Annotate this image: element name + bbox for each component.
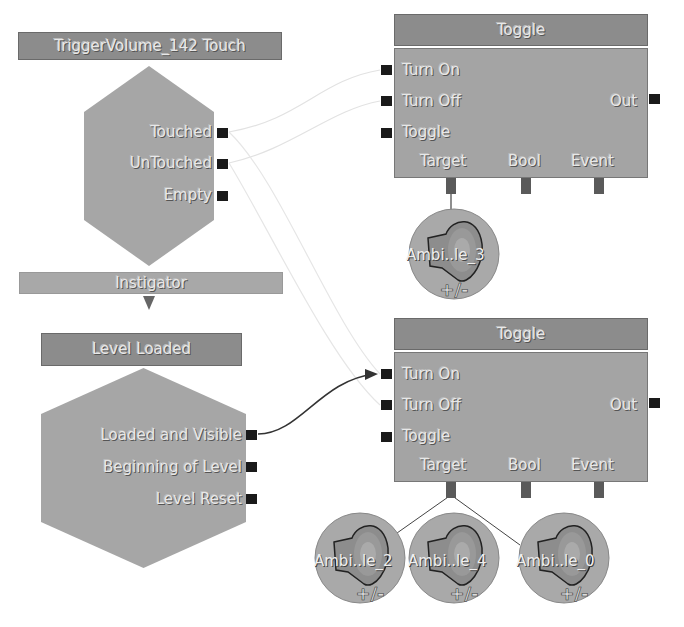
output-port-loaded-and-visible[interactable] <box>246 430 257 440</box>
level-loaded-title[interactable]: Level Loaded <box>41 333 242 366</box>
variable-label: Ambi..le_0 <box>516 552 595 570</box>
output-port-beginning-of-level[interactable] <box>246 462 257 472</box>
toggle-top-input-toggle: Toggle <box>402 123 450 141</box>
toggle-top-var-target: Target <box>420 152 466 170</box>
output-label-beginning-of-level: Beginning of Level <box>103 458 242 476</box>
toggle-bottom-port-out[interactable] <box>649 398 660 408</box>
output-label-touched: Touched <box>150 123 212 141</box>
output-port-untouched[interactable] <box>217 159 228 169</box>
variable-label: Ambi..le_3 <box>406 246 485 264</box>
toggle-bottom-target-port[interactable] <box>446 482 456 498</box>
toggle-top-var-bool: Bool <box>508 152 541 170</box>
toggle-top-event-port[interactable] <box>594 178 604 194</box>
variable-ambient-sound-4[interactable]: +/- Ambi..le_4 <box>406 510 502 606</box>
variable-ambient-sound-3[interactable]: +/- Ambi..le_3 <box>406 206 502 302</box>
svg-text:+/-: +/- <box>449 583 478 604</box>
toggle-bottom-input-toggle: Toggle <box>402 427 450 445</box>
toggle-top-port-turn-off[interactable] <box>381 96 392 106</box>
variable-ambient-sound-2[interactable]: +/- Ambi..le_2 <box>312 510 408 606</box>
toggle-bottom-output-out: Out <box>610 396 637 414</box>
toggle-bottom-input-turn-on: Turn On <box>402 365 460 383</box>
toggle-top-input-turn-off: Turn Off <box>402 92 461 110</box>
output-label-empty: Empty <box>164 186 212 204</box>
toggle-bottom-var-target: Target <box>420 456 466 474</box>
toggle-bottom-port-toggle[interactable] <box>381 432 392 442</box>
output-port-empty[interactable] <box>217 191 228 201</box>
toggle-top-output-out: Out <box>610 92 637 110</box>
toggle-top-input-turn-on: Turn On <box>402 61 460 79</box>
toggle-top-bool-port[interactable] <box>521 178 531 194</box>
output-label-loaded-and-visible: Loaded and Visible <box>101 426 243 444</box>
toggle-bottom-var-event: Event <box>571 456 614 474</box>
toggle-top-var-event: Event <box>571 152 614 170</box>
svg-text:+/-: +/- <box>559 583 588 604</box>
output-port-touched[interactable] <box>217 128 228 138</box>
svg-text:+/-: +/- <box>355 583 384 604</box>
svg-text:+/-: +/- <box>439 279 468 300</box>
toggle-bottom-var-bool: Bool <box>508 456 541 474</box>
toggle-top-target-port[interactable] <box>446 178 456 194</box>
instigator-arrow-icon[interactable] <box>143 296 155 310</box>
trigger-event-title[interactable]: TriggerVolume_142 Touch <box>18 32 282 60</box>
variable-ambient-sound-0[interactable]: +/- Ambi..le_0 <box>516 510 612 606</box>
variable-label: Ambi..le_4 <box>408 552 487 570</box>
toggle-bottom-bool-port[interactable] <box>521 482 531 498</box>
toggle-bottom-port-turn-on[interactable] <box>381 369 392 379</box>
output-label-level-reset: Level Reset <box>156 490 242 508</box>
variable-label: Ambi..le_2 <box>314 552 393 570</box>
toggle-top-title[interactable]: Toggle <box>394 14 648 46</box>
toggle-bottom-title[interactable]: Toggle <box>394 318 648 350</box>
toggle-top-port-turn-on[interactable] <box>381 65 392 75</box>
toggle-bottom-event-port[interactable] <box>594 482 604 498</box>
output-port-level-reset[interactable] <box>246 494 257 504</box>
toggle-top-port-out[interactable] <box>649 94 660 104</box>
toggle-bottom-port-turn-off[interactable] <box>381 400 392 410</box>
instigator-link[interactable]: Instigator <box>19 272 283 294</box>
toggle-bottom-input-turn-off: Turn Off <box>402 396 461 414</box>
output-label-untouched: UnTouched <box>130 154 212 172</box>
toggle-top-port-toggle[interactable] <box>381 128 392 138</box>
